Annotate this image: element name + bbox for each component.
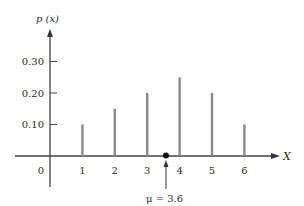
x-tick-label: 0 xyxy=(38,165,44,176)
y-tick-label: 0.30 xyxy=(22,56,44,67)
x-axis-label: X xyxy=(282,150,292,163)
x-tick-label: 6 xyxy=(241,165,247,176)
y-axis-label: p (x) xyxy=(36,13,59,24)
x-tick-label: 5 xyxy=(209,165,215,176)
x-axis-arrow-icon xyxy=(271,153,280,159)
x-ticks: 0123456 xyxy=(38,165,248,176)
mean-arrow-icon xyxy=(164,160,169,167)
bar-x-6 xyxy=(243,125,245,157)
bar-x-4 xyxy=(178,77,180,156)
bar-x-5 xyxy=(211,93,213,156)
y-tick-label: 0.20 xyxy=(22,88,44,99)
bar-x-3 xyxy=(146,93,148,156)
x-tick-label: 1 xyxy=(79,165,85,176)
bar-x-2 xyxy=(114,109,116,156)
pmf-chart: 0.100.200.30 0123456 p (x) X μ = 3.6 xyxy=(0,0,304,206)
x-tick-label: 3 xyxy=(144,165,150,176)
x-tick-label: 2 xyxy=(112,165,118,176)
y-ticks: 0.100.200.30 xyxy=(22,56,57,130)
x-tick-label: 4 xyxy=(176,165,182,176)
mean-dot xyxy=(163,153,169,159)
mean-label: μ = 3.6 xyxy=(146,193,183,204)
bars xyxy=(81,77,245,156)
y-tick-label: 0.10 xyxy=(22,119,44,130)
y-axis-arrow-icon xyxy=(47,29,53,37)
bar-x-1 xyxy=(81,125,83,157)
mean-annotation: μ = 3.6 xyxy=(146,153,183,205)
